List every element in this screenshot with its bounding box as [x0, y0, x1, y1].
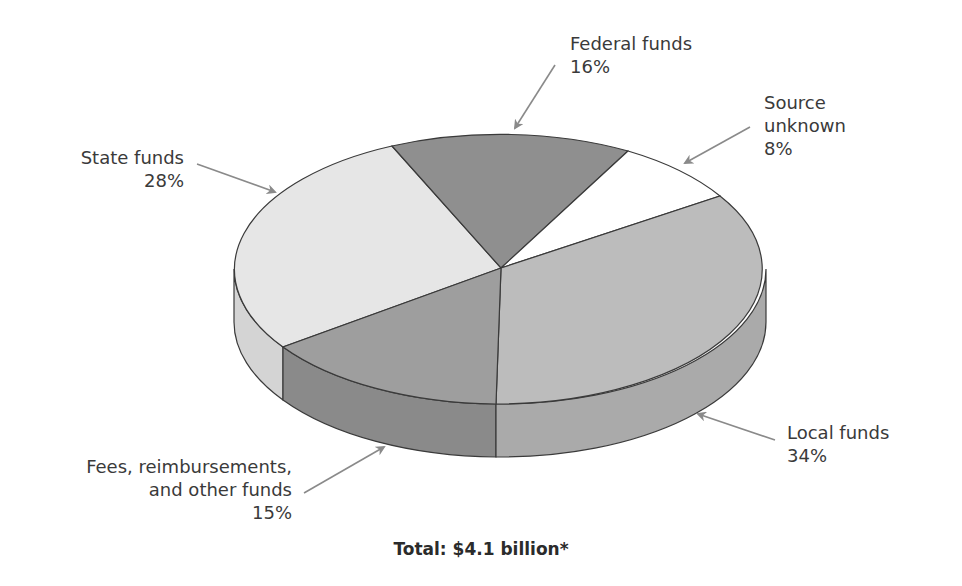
arrow-federal — [515, 65, 555, 128]
label-source-unknown: Source unknown 8% — [764, 91, 846, 160]
arrow-unknown — [685, 127, 750, 163]
label-state-funds: State funds 28% — [60, 146, 184, 192]
label-fees-pct: 15% — [20, 501, 292, 524]
label-fees-line2: and other funds — [20, 478, 292, 501]
arrow-fees — [304, 447, 384, 493]
label-unknown-pct: 8% — [764, 137, 846, 160]
total-caption: Total: $4.1 billion* — [0, 539, 962, 559]
label-federal-funds: Federal funds 16% — [570, 32, 692, 78]
arrow-state — [197, 164, 275, 192]
label-unknown-line2: unknown — [764, 114, 846, 137]
label-local-pct: 34% — [787, 444, 889, 467]
label-fees-line1: Fees, reimbursements, — [20, 455, 292, 478]
label-federal-pct: 16% — [570, 55, 692, 78]
label-unknown-line1: Source — [764, 91, 846, 114]
label-fees-other: Fees, reimbursements, and other funds 15… — [20, 455, 292, 524]
label-state-name: State funds — [60, 146, 184, 169]
total-text: Total: $4.1 billion* — [393, 539, 568, 559]
label-local-name: Local funds — [787, 421, 889, 444]
arrow-local — [698, 414, 775, 440]
label-state-pct: 28% — [60, 169, 184, 192]
label-federal-name: Federal funds — [570, 32, 692, 55]
label-local-funds: Local funds 34% — [787, 421, 889, 467]
